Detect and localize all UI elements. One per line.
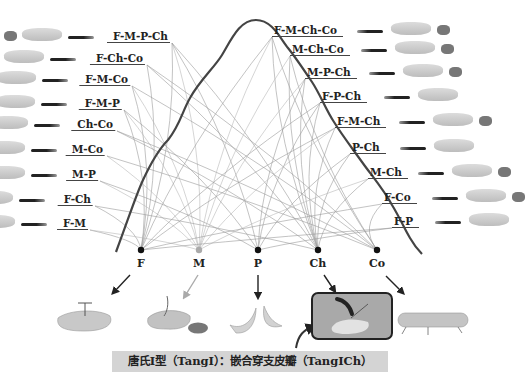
connection-line <box>132 86 147 250</box>
arrow-bar-icon <box>384 96 410 99</box>
tissue-thumbnail <box>0 95 35 108</box>
combination-label: F-Ch-Co <box>90 52 145 65</box>
tissue-thumbnail <box>418 88 458 101</box>
connection-line <box>199 79 305 250</box>
tissue-thumbnail <box>0 166 25 179</box>
node-label-f: F <box>137 257 145 270</box>
combination-label: M-Co <box>66 143 105 156</box>
perforator-flap-left-illustration <box>230 308 256 333</box>
node-dot-m <box>196 247 202 253</box>
node-label-m: M <box>193 257 205 270</box>
muscle-patch-thumbnail <box>449 67 462 77</box>
connection-line <box>172 43 200 250</box>
arrow-bar-icon <box>19 199 45 202</box>
connection-line <box>90 230 141 250</box>
combination-label: M-Ch <box>368 166 408 179</box>
bell-curve <box>116 20 422 254</box>
tissue-thumbnail <box>4 50 44 63</box>
combination-label: F-M <box>57 217 88 230</box>
arrow-bar-icon <box>31 174 57 177</box>
combination-label: F-M-Co <box>79 73 130 86</box>
muscle-patch-thumbnail <box>4 31 17 41</box>
connection-line <box>141 37 272 250</box>
tissue-thumbnail <box>22 28 62 41</box>
combination-label: F-M-Ch <box>335 115 386 128</box>
muscle-patch-thumbnail <box>512 192 525 202</box>
arrow-bar-icon <box>399 121 425 124</box>
combination-label: F-Ch <box>58 193 93 206</box>
arrow-bar-icon <box>400 147 426 150</box>
arrow-icon-f <box>114 275 130 292</box>
connection-line <box>141 228 392 250</box>
tissue-thumbnail <box>0 141 25 154</box>
arrow-bar-icon <box>68 36 94 39</box>
arrow-bar-icon <box>41 103 67 106</box>
connection-line <box>199 37 272 250</box>
cutaneous-vessels-icon <box>402 327 462 335</box>
combination-label: M-P <box>66 168 98 181</box>
connection-line <box>369 204 382 250</box>
arrow-bar-icon <box>31 149 57 152</box>
arrow-bar-icon <box>50 58 76 61</box>
arrow-bar-icon <box>361 49 387 52</box>
connection-line <box>199 128 335 250</box>
connection-line <box>100 181 258 250</box>
tissue-thumbnail <box>0 71 36 84</box>
connection-line <box>124 110 144 250</box>
tissue-thumbnail <box>466 189 506 202</box>
tissue-thumbnail <box>391 22 431 35</box>
tissue-thumbnail <box>395 41 435 54</box>
connection-line <box>318 154 350 250</box>
connection-line <box>318 179 368 250</box>
tissue-thumbnail <box>403 64 443 77</box>
arrow-bar-icon <box>42 79 68 82</box>
node-label-p: P <box>254 257 262 270</box>
combination-label: P-Ch <box>350 141 386 154</box>
combination-label: M-Ch-Co <box>290 43 350 56</box>
arrow-bar-icon <box>418 172 444 175</box>
arrow-icon-co <box>386 276 402 292</box>
node-dot-ch <box>315 247 321 253</box>
muscle-patch-icon <box>188 323 208 334</box>
tissue-thumbnail <box>434 139 474 152</box>
figure-caption: 唐氏Ⅰ型（TangⅠ）：嵌合穿支皮瓣（TangⅠCh） <box>112 351 388 372</box>
tissue-thumbnail <box>0 116 28 129</box>
arrow-bar-icon <box>435 221 461 224</box>
node-label-co: Co <box>369 257 385 270</box>
node-dot-co <box>374 247 380 253</box>
tissue-thumbnail <box>452 164 492 177</box>
perforator-flap-right-illustration <box>264 306 282 327</box>
muscle-patch-thumbnail <box>437 25 450 35</box>
cutaneous-flap-illustration <box>398 313 468 327</box>
caption-arrow-icon <box>296 327 312 348</box>
tissue-illustrations <box>58 293 468 339</box>
combination-label: F-P <box>392 215 419 228</box>
muscle-patch-thumbnail <box>498 167 511 177</box>
connection-line <box>258 228 392 250</box>
connection-line <box>172 43 258 250</box>
arrow-icon-ch <box>324 275 334 290</box>
combination-label: M-P-Ch <box>305 66 357 79</box>
node-dots <box>138 247 380 253</box>
arrow-bar-icon <box>432 197 458 200</box>
muscle-patch-thumbnail <box>479 116 492 126</box>
tissue-thumbnail <box>469 213 509 226</box>
combination-label: F-M-Ch-Co <box>272 24 343 37</box>
combination-label: F-M-P <box>79 97 122 110</box>
combination-label: F-M-P-Ch <box>107 30 170 43</box>
tissue-thumbnail <box>433 113 473 126</box>
node-dot-p <box>255 247 261 253</box>
muscle-flap-illustration <box>148 311 191 330</box>
combination-label: Ch-Co <box>71 118 115 131</box>
arrow-bar-icon <box>34 124 60 127</box>
muscle-patch-thumbnail <box>441 44 454 54</box>
arrow-bar-icon <box>369 72 395 75</box>
connection-line <box>141 65 154 250</box>
node-dot-f <box>138 247 144 253</box>
arrow-bar-icon <box>357 30 383 33</box>
arrow-icon-m <box>185 275 198 296</box>
arrow-bar-icon <box>21 223 47 226</box>
fascial-flap-illustration <box>58 311 111 331</box>
